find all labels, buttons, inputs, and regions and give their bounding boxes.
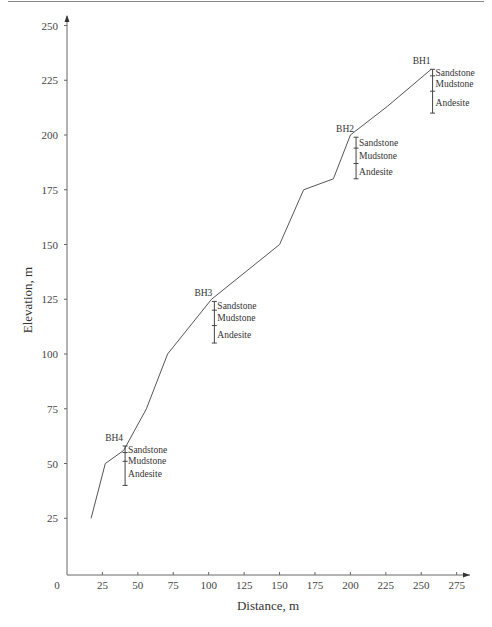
layer-label-sandstone: Sandstone [436,68,475,78]
layer-label-sandstone: Sandstone [217,301,256,311]
y-tick-label: 200 [42,129,59,141]
x-tick-label: 50 [132,579,144,591]
borehole-bh1: BH1SandstoneMudstoneAndesite [413,56,475,113]
x-tick-label: 0 [54,579,60,591]
layer-label-mudstone: Mudstone [436,79,474,89]
y-tick-label: 175 [42,184,59,196]
x-tick-label: 125 [236,579,253,591]
borehole-label: BH1 [413,56,431,66]
x-tick-label: 200 [342,579,359,591]
layer-label-andesite: Andesite [217,330,251,340]
borehole-label: BH4 [105,433,123,443]
y-tick-label: 50 [47,458,59,470]
y-axis-title: Elevation, m [20,267,35,333]
borehole-label: BH2 [336,124,354,134]
layer-label-sandstone: Sandstone [359,138,398,148]
layer-label-mudstone: Mudstone [217,313,255,323]
y-tick-label: 75 [47,403,59,415]
layer-label-andesite: Andesite [359,167,393,177]
x-tick-label: 75 [168,579,180,591]
y-tick-label: 150 [42,239,59,251]
x-tick-label: 100 [200,579,217,591]
y-axis-arrow-icon [65,15,70,22]
borehole-bh4: BH4SandstoneMudstoneAndesite [105,433,167,485]
y-tick-label: 250 [42,20,59,32]
x-tick-label: 150 [271,579,288,591]
borehole-bh3: BH3SandstoneMudstoneAndesite [194,288,256,343]
x-tick-label: 225 [378,579,395,591]
layer-label-mudstone: Mudstone [128,456,166,466]
borehole-label: BH3 [194,288,212,298]
y-tick-label: 125 [42,293,59,305]
layer-label-andesite: Andesite [436,98,470,108]
x-axis-arrow-icon [463,573,470,578]
x-tick-label: 175 [307,579,324,591]
elevation-profile-chart: 2550751001251501752002252500255075100125… [0,0,492,627]
layer-label-mudstone: Mudstone [359,151,397,161]
layer-label-sandstone: Sandstone [128,445,167,455]
boreholes: BH1SandstoneMudstoneAndesiteBH2Sandstone… [105,56,475,485]
y-tick-label: 25 [47,512,59,524]
layer-label-andesite: Andesite [128,469,162,479]
x-tick-label: 25 [97,579,109,591]
x-tick-label: 250 [413,579,430,591]
y-tick-label: 225 [42,74,59,86]
x-tick-label: 275 [448,579,465,591]
y-tick-label: 100 [42,348,59,360]
x-axis-title: Distance, m [237,598,299,613]
borehole-bh2: BH2SandstoneMudstoneAndesite [336,124,398,179]
